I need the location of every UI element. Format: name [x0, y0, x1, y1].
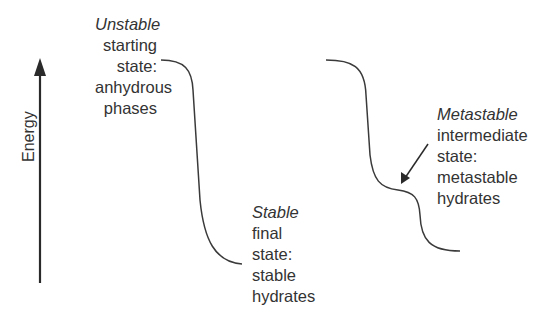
metastable-line-1: intermediate — [437, 125, 552, 146]
metastable-line-4: hydrates — [437, 188, 552, 209]
metastable-line-3: metastable — [437, 167, 552, 188]
energy-axis-arrow — [34, 58, 46, 283]
stable-line-1: final — [252, 223, 332, 244]
metastable-state-label: Metastable intermediate state: metastabl… — [437, 104, 552, 209]
direct-transition-curve — [161, 60, 242, 264]
energy-axis-label: Energy — [20, 122, 40, 162]
unstable-line-4: phases — [95, 98, 157, 119]
unstable-state-label: Unstable starting state: anhydrous phase… — [95, 14, 157, 119]
stable-line-4: hydrates — [252, 286, 332, 307]
metastable-qualifier: Metastable — [437, 104, 552, 125]
stable-qualifier: Stable — [252, 202, 332, 223]
unstable-line-1: starting — [95, 35, 157, 56]
unstable-line-2: state: — [95, 56, 157, 77]
unstable-qualifier: Unstable — [95, 14, 157, 35]
metastable-pointer-arrow — [401, 144, 428, 184]
metastable-line-2: state: — [437, 146, 552, 167]
unstable-line-3: anhydrous — [95, 77, 157, 98]
stable-line-2: state: — [252, 244, 332, 265]
stable-state-label: Stable final state: stable hydrates — [252, 202, 332, 307]
energy-diagram: Energy Unstable starting state: anhydrou… — [0, 0, 552, 326]
stable-line-3: stable — [252, 265, 332, 286]
